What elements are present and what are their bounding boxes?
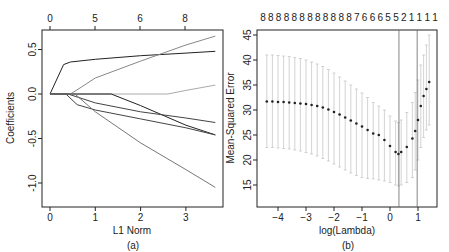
top-tick-label: 6 — [370, 12, 376, 23]
figure: -1.0-0.50.00.5 0123 0568 L1 Norm Coeffic… — [0, 0, 449, 252]
top-tick-label: 7 — [354, 12, 360, 23]
top-tick-label: 6 — [377, 12, 383, 23]
top-tick-label: 1 — [432, 12, 438, 23]
lambda-reference-lines — [399, 30, 417, 207]
mse-point — [344, 116, 347, 119]
y-axis-b: 15202530354045 — [242, 29, 257, 191]
panel-a-coefficient-paths: -1.0-0.50.00.5 0123 0568 L1 Norm Coeffic… — [5, 13, 223, 251]
y-tick-label: 35 — [242, 79, 253, 91]
top-tick-label: 8 — [276, 12, 282, 23]
mse-point — [414, 130, 417, 133]
mse-point — [372, 132, 375, 135]
mse-point — [305, 103, 308, 106]
top-tick-label: 5 — [385, 12, 391, 23]
top-tick-label: 2 — [401, 12, 407, 23]
x-tick-label: 3 — [183, 212, 189, 223]
top-tick-label: 6 — [362, 12, 368, 23]
top-tick-label: 8 — [307, 12, 313, 23]
mse-point — [417, 119, 420, 122]
top-tick-label: 8 — [291, 12, 297, 23]
y-tick-label: 0.5 — [27, 42, 38, 56]
y-axis-label-a: Coefficients — [5, 92, 16, 144]
mse-point — [425, 88, 428, 91]
top-tick-label: 5 — [393, 12, 399, 23]
mse-point — [366, 129, 369, 132]
top-tick-label: 0 — [47, 13, 53, 24]
coefficient-path — [50, 94, 215, 187]
y-tick-label: -0.5 — [27, 129, 38, 147]
mse-point — [389, 145, 392, 148]
x-tick-label: 0 — [387, 212, 393, 223]
mse-point — [400, 151, 403, 154]
mse-point — [294, 102, 297, 105]
x-axis-b: −4−3−2−101 — [272, 207, 421, 223]
mse-point — [361, 125, 364, 128]
top-tick-label: 8 — [346, 12, 352, 23]
mse-point — [397, 153, 400, 156]
top-tick-label: 8 — [182, 13, 188, 24]
x-tick-label: 0 — [47, 212, 53, 223]
top-tick-label: 8 — [323, 12, 329, 23]
coefficient-path — [50, 51, 215, 94]
top-axis-b: 88888888888876665521111 — [260, 12, 438, 23]
mse-point — [338, 113, 341, 116]
y-tick-label: 0.0 — [27, 87, 38, 101]
mse-point — [310, 104, 313, 107]
x-tick-label: −3 — [300, 212, 312, 223]
mse-point — [333, 111, 336, 114]
y-tick-label: 25 — [242, 129, 253, 141]
y-axis-a: -1.0-0.50.00.5 — [27, 42, 42, 192]
y-axis-label-b: Mean-Squared Error — [225, 72, 236, 164]
mse-points — [266, 81, 431, 156]
x-tick-label: −1 — [356, 212, 368, 223]
mse-point — [378, 134, 381, 137]
mse-point — [428, 81, 431, 84]
top-tick-label: 5 — [92, 13, 98, 24]
mse-point — [327, 108, 330, 111]
caption-b: (b) — [342, 240, 354, 251]
mse-point — [271, 100, 274, 103]
x-tick-label: −2 — [328, 212, 340, 223]
coefficient-lines — [50, 36, 215, 187]
top-tick-label: 1 — [424, 12, 430, 23]
y-tick-label: -1.0 — [27, 174, 38, 192]
coefficient-path — [50, 85, 215, 94]
top-tick-label: 1 — [409, 12, 415, 23]
panel-b-cv-error: 15202530354045 −4−3−2−101 88888888888876… — [225, 12, 438, 251]
x-tick-label: 2 — [138, 212, 144, 223]
top-tick-label: 8 — [284, 12, 290, 23]
x-axis-a: 0123 — [47, 207, 189, 223]
mse-point — [420, 105, 423, 108]
top-axis-a: 0568 — [47, 13, 188, 30]
mse-point — [355, 122, 358, 125]
mse-point — [422, 95, 425, 98]
y-tick-label: 15 — [242, 179, 253, 191]
x-axis-label-a: L1 Norm — [113, 225, 151, 236]
mse-point — [406, 146, 409, 149]
x-tick-label: 1 — [93, 212, 99, 223]
mse-point — [266, 100, 269, 103]
mse-point — [288, 101, 291, 104]
mse-point — [322, 106, 325, 109]
caption-a: (a) — [127, 240, 139, 251]
mse-point — [277, 101, 280, 104]
coefficient-path — [50, 94, 215, 123]
mse-point — [316, 105, 319, 108]
mse-point — [350, 119, 353, 122]
top-tick-label: 1 — [417, 12, 423, 23]
y-tick-label: 20 — [242, 154, 253, 166]
x-axis-label-b: log(Lambda) — [319, 225, 375, 236]
top-tick-label: 8 — [338, 12, 344, 23]
mse-point — [383, 139, 386, 142]
mse-point — [299, 102, 302, 105]
mse-point — [411, 137, 414, 140]
top-tick-label: 6 — [137, 13, 143, 24]
x-tick-label: 1 — [415, 212, 421, 223]
top-tick-label: 8 — [268, 12, 274, 23]
error-bars — [265, 35, 430, 186]
mse-point — [394, 151, 397, 154]
coefficient-path — [50, 94, 215, 135]
y-tick-label: 30 — [242, 104, 253, 116]
top-tick-label: 8 — [331, 12, 337, 23]
y-tick-label: 45 — [242, 29, 253, 41]
